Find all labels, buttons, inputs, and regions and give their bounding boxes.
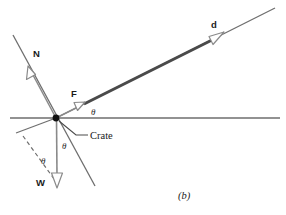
vector-label-d: d xyxy=(211,19,217,30)
crate-origin-dot xyxy=(53,115,60,122)
weight-component-dashed-line xyxy=(23,136,57,183)
displacement-arrowhead-icon xyxy=(209,32,224,45)
vector-label-W: W xyxy=(36,177,45,188)
normal-axis-line xyxy=(13,35,95,186)
weight-vector-shaft xyxy=(57,118,58,176)
angle-label-weight-component: θ xyxy=(41,156,46,166)
crate-callout-label: Crate xyxy=(90,130,113,141)
weight-arrowhead-icon xyxy=(52,173,63,188)
applied-force-arrowhead-icon xyxy=(74,102,85,111)
vector-label-F: F xyxy=(71,88,77,99)
diagram-canvas: N F W d θ θ θ Crate (b) xyxy=(0,0,286,215)
angle-label-incline: θ xyxy=(91,107,96,117)
panel-label: (b) xyxy=(178,190,191,202)
angle-label-weight-normal: θ xyxy=(62,141,67,151)
physics-free-body-diagram: N F W d θ θ θ Crate (b) xyxy=(0,0,286,215)
displacement-vector-shaft xyxy=(84,37,218,104)
vector-label-N: N xyxy=(33,48,40,59)
perpendicular-helper-line xyxy=(16,118,56,133)
normal-force-vector-shaft xyxy=(33,75,56,118)
applied-force-vector-shaft xyxy=(56,107,78,118)
